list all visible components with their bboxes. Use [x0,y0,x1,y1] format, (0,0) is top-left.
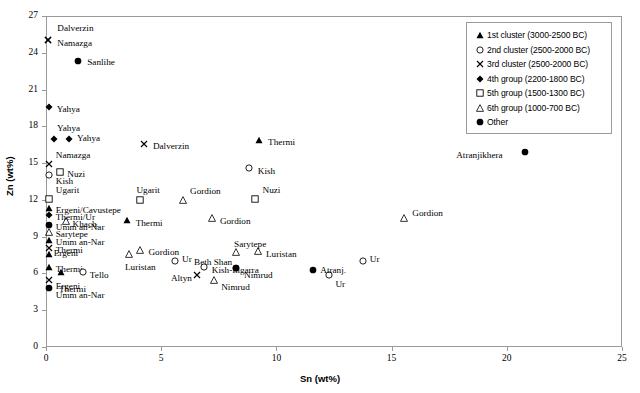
y-tick-label: 27 [12,10,38,20]
data-point-label: Thermi [136,218,163,228]
data-point-marker[interactable] [245,164,253,172]
data-point-marker[interactable] [400,214,408,222]
data-point-marker[interactable] [171,257,179,265]
data-point-marker[interactable] [74,57,82,65]
data-point-label: Ugarit [136,185,159,195]
data-point-marker[interactable] [125,250,133,258]
data-point-label: Gordion [148,247,179,257]
scatter-chart: Zn (wt%) Sn (wt%) 0369121518212427 05101… [0,0,640,393]
x-tick-label: 10 [261,353,291,363]
x-tick-mark [392,347,393,351]
data-point-marker[interactable] [65,135,73,143]
legend-item[interactable]: 3rd cluster (2500-2000 BC) [473,57,605,72]
y-tick-mark [42,126,46,127]
data-point-marker[interactable] [57,268,65,276]
data-point-marker[interactable] [232,264,240,272]
legend-item-label: 3rd cluster (2500-2000 BC) [487,59,588,69]
x-tick-label: 15 [377,353,407,363]
legend-item[interactable]: 5th group (1500-1300 BC) [473,86,605,101]
data-point-marker[interactable] [45,250,53,258]
legend-marker-icon [473,75,487,83]
y-tick-label: 12 [12,194,38,204]
legend: 1st cluster (3000-2500 BC)2nd cluster (2… [466,22,612,134]
data-point-marker[interactable] [44,36,52,44]
data-point-marker[interactable] [45,171,53,179]
y-tick-label: 3 [12,304,38,314]
data-point-label: Gordion [220,216,251,226]
legend-marker-icon [473,89,487,97]
data-point-marker[interactable] [45,228,53,236]
y-tick-mark [42,310,46,311]
legend-item-label: Other [487,117,508,127]
y-tick-mark [42,90,46,91]
data-point-marker[interactable] [210,276,218,284]
data-point-label: Atranjikhera [456,150,502,160]
data-point-label: Gordion [412,208,443,218]
y-tick-mark [42,53,46,54]
data-point-marker[interactable] [179,196,187,204]
legend-marker-icon [473,31,487,39]
data-point-label: Dalverzin [57,23,93,33]
data-point-label: Namazga [57,38,92,48]
data-point-marker[interactable] [521,148,529,156]
legend-marker-icon [473,104,487,112]
data-point-label: Gordion [190,186,221,196]
data-point-marker[interactable] [50,135,58,143]
legend-item-label: 6th group (1000-700 BC) [487,103,580,113]
legend-item[interactable]: Other [473,115,605,130]
data-point-marker[interactable] [45,236,53,244]
data-point-marker[interactable] [193,271,201,279]
y-tick-label: 9 [12,231,38,241]
data-point-label: Kish [258,166,275,176]
legend-marker-icon [473,46,487,54]
legend-item[interactable]: 1st cluster (3000-2500 BC) [473,28,605,43]
y-tick-label: 15 [12,157,38,167]
data-point-label: Altyn [171,273,192,283]
legend-marker-icon [473,118,487,126]
data-point-marker[interactable] [45,160,53,168]
y-tick-label: 18 [12,120,38,130]
data-point-marker[interactable] [79,268,87,276]
legend-item[interactable]: 2nd cluster (2500-2000 BC) [473,43,605,58]
y-tick-label: 0 [12,341,38,351]
legend-item-label: 5th group (1500-1300 BC) [487,88,584,98]
data-point-marker[interactable] [56,168,64,176]
data-point-marker[interactable] [136,196,144,204]
data-point-label: Luristan [266,249,297,259]
data-point-marker[interactable] [45,284,53,292]
data-point-label: Atranj. [320,265,346,275]
data-point-marker[interactable] [200,263,208,271]
legend-item-label: 4th group (2200-1800 BC) [487,74,584,84]
data-point-marker[interactable] [45,103,53,111]
data-point-marker[interactable] [251,195,259,203]
data-point-label: Luristan [125,262,156,272]
legend-item[interactable]: 4th group (2200-1800 BC) [473,72,605,87]
data-point-marker[interactable] [359,257,367,265]
data-point-marker[interactable] [45,263,53,271]
data-point-label: Namazga [56,150,91,160]
legend-item[interactable]: 6th group (1000-700 BC) [473,101,605,116]
x-axis-title: Sn (wt%) [0,373,640,384]
data-point-marker[interactable] [309,266,317,274]
data-point-marker[interactable] [136,246,144,254]
data-point-label: Dalverzin [153,141,189,151]
data-point-label: Nimrud [221,282,250,292]
x-tick-mark [46,347,47,351]
data-point-marker[interactable] [255,136,263,144]
data-point-marker[interactable] [123,216,131,224]
x-tick-label: 20 [492,353,522,363]
data-point-marker[interactable] [140,140,148,148]
x-tick-label: 0 [31,353,61,363]
y-tick-label: 6 [12,267,38,277]
legend-marker-icon [473,60,487,68]
data-point-marker[interactable] [232,248,240,256]
data-point-marker[interactable] [45,195,53,203]
legend-item-label: 2nd cluster (2500-2000 BC) [487,45,590,55]
y-tick-mark [42,16,46,17]
data-point-marker[interactable] [254,247,262,255]
legend-item-label: 1st cluster (3000-2500 BC) [487,30,587,40]
data-point-label: Sanlihe [87,57,115,67]
data-point-marker[interactable] [45,211,53,219]
data-point-label: Ugarit [56,185,79,195]
data-point-marker[interactable] [208,214,216,222]
